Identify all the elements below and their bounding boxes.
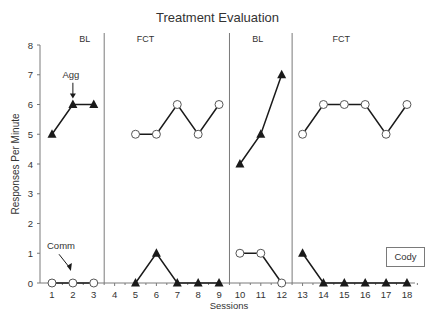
comm-arrowhead-icon bbox=[67, 263, 72, 271]
comm-data-point bbox=[194, 130, 202, 138]
comm-data-point bbox=[340, 101, 348, 109]
y-tick-label: 8 bbox=[28, 40, 33, 51]
x-tick-label: 6 bbox=[154, 289, 159, 300]
treatment-evaluation-chart: 012345678123456789101112131415161718Sess… bbox=[0, 0, 435, 326]
x-tick-label: 16 bbox=[360, 289, 371, 300]
y-tick-label: 2 bbox=[28, 218, 33, 229]
comm-data-point bbox=[48, 279, 56, 287]
x-tick-label: 3 bbox=[91, 289, 96, 300]
y-tick-label: 1 bbox=[28, 248, 33, 259]
y-tick-label: 0 bbox=[28, 278, 33, 289]
x-tick-label: 4 bbox=[112, 289, 117, 300]
agg-data-point bbox=[298, 248, 307, 257]
comm-data-point bbox=[173, 101, 181, 109]
comm-data-point bbox=[299, 130, 307, 138]
x-tick-label: 7 bbox=[175, 289, 180, 300]
y-axis-label: Responses Per Minute bbox=[10, 113, 21, 215]
x-tick-label: 10 bbox=[235, 289, 246, 300]
phase-label-fct: FCT bbox=[137, 34, 155, 44]
comm-data-point bbox=[90, 279, 98, 287]
y-tick-label: 7 bbox=[28, 69, 33, 80]
x-tick-label: 13 bbox=[297, 289, 308, 300]
x-tick-label: 1 bbox=[49, 289, 54, 300]
comm-data-point bbox=[403, 101, 411, 109]
x-tick-label: 17 bbox=[381, 289, 392, 300]
y-tick-label: 3 bbox=[28, 188, 33, 199]
agg-data-point bbox=[277, 70, 286, 79]
y-tick-label: 4 bbox=[28, 159, 33, 170]
participant-label: Cody bbox=[386, 247, 425, 267]
comm-data-point bbox=[69, 279, 77, 287]
x-tick-label: 12 bbox=[276, 289, 287, 300]
agg-line bbox=[240, 75, 282, 164]
x-tick-label: 5 bbox=[133, 289, 138, 300]
x-tick-label: 15 bbox=[339, 289, 350, 300]
x-tick-label: 2 bbox=[70, 289, 75, 300]
comm-data-point bbox=[152, 130, 160, 138]
agg-annotation: Agg bbox=[62, 69, 79, 80]
comm-annotation: Comm bbox=[47, 240, 75, 251]
comm-data-point bbox=[215, 101, 223, 109]
y-tick-label: 6 bbox=[28, 99, 33, 110]
agg-arrowhead-icon bbox=[70, 94, 76, 99]
x-axis-label: Sessions bbox=[210, 300, 249, 311]
x-tick-label: 8 bbox=[196, 289, 201, 300]
comm-data-point bbox=[236, 249, 244, 257]
comm-data-point bbox=[319, 101, 327, 109]
x-tick-label: 18 bbox=[402, 289, 413, 300]
agg-data-point bbox=[152, 248, 161, 257]
comm-data-point bbox=[132, 130, 140, 138]
x-tick-label: 9 bbox=[216, 289, 221, 300]
comm-line bbox=[303, 105, 407, 135]
agg-data-point bbox=[256, 129, 265, 138]
comm-data-point bbox=[257, 249, 265, 257]
phase-label-bl: BL bbox=[252, 34, 263, 44]
comm-data-point bbox=[361, 101, 369, 109]
phase-label-fct: FCT bbox=[333, 34, 351, 44]
comm-data-point bbox=[278, 279, 286, 287]
y-tick-label: 5 bbox=[28, 129, 33, 140]
phase-label-bl: BL bbox=[79, 34, 90, 44]
x-tick-label: 11 bbox=[256, 289, 266, 300]
x-tick-label: 14 bbox=[318, 289, 329, 300]
agg-line bbox=[52, 105, 94, 135]
comm-data-point bbox=[382, 130, 390, 138]
